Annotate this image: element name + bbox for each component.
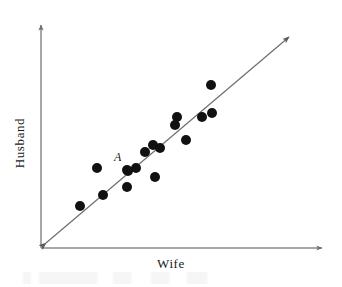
data-point [140,147,150,157]
point-a-annotation-label: A [114,150,121,165]
axes-group [41,25,322,248]
data-point [155,143,165,153]
x-axis-label: Wife [0,256,342,272]
data-point [131,163,141,173]
y-axis-label: Husband [12,93,28,193]
scatter-plot-figure: Husband Wife A [0,0,342,287]
data-point [150,172,160,182]
data-point [122,182,132,192]
data-point [197,112,207,122]
data-point-group [75,80,217,211]
plot-canvas [0,0,342,287]
data-point [181,135,191,145]
data-point [206,80,216,90]
data-point [122,165,132,175]
data-point [92,163,102,173]
data-point [98,190,108,200]
equality-reference-line [46,37,289,243]
data-point [75,201,85,211]
data-point [207,108,217,118]
data-point [172,112,182,122]
